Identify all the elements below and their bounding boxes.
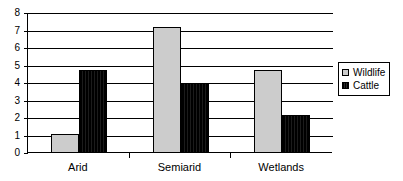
y-axis-tick-label: 0 [6,148,20,158]
bar-semiarid-wildlife [153,27,181,153]
x-axis-tick-mark [129,153,130,158]
legend-swatch-icon [342,69,349,76]
y-axis-tick-label: 8 [6,8,20,18]
legend-item-wildlife: Wildlife [342,66,385,79]
y-axis-tick-label: 4 [6,78,20,88]
x-axis-tick-marks [27,153,332,159]
bar-semiarid-cattle [181,83,209,153]
legend-swatch-icon [342,82,349,89]
bar-arid-cattle [79,70,107,153]
legend-item-cattle: Cattle [342,79,385,92]
bar-wetlands-wildlife [254,70,282,153]
x-axis-label-wetlands: Wetlands [230,161,332,174]
y-axis-tick-label: 5 [6,61,20,71]
y-axis-tick-label: 2 [6,113,20,123]
legend-label: Cattle [353,80,379,91]
bar-wetlands-cattle [282,115,310,154]
x-axis-label-semiarid: Semiarid [129,161,231,174]
plot-area [27,13,332,153]
bar-chart: 012345678 AridSemiaridWetlands WildlifeC… [0,0,403,181]
y-axis-tick-label: 6 [6,43,20,53]
y-axis-tick-label: 7 [6,26,20,36]
legend: WildlifeCattle [338,62,390,96]
y-axis-tick-label: 3 [6,96,20,106]
y-axis-tick-label: 1 [6,131,20,141]
bars-layer [28,13,333,153]
x-axis-labels: AridSemiaridWetlands [27,161,332,175]
legend-label: Wildlife [353,67,385,78]
x-axis-tick-mark [230,153,231,158]
bar-arid-wildlife [51,134,79,153]
x-axis-label-arid: Arid [27,161,129,174]
y-axis-labels: 012345678 [4,0,20,181]
